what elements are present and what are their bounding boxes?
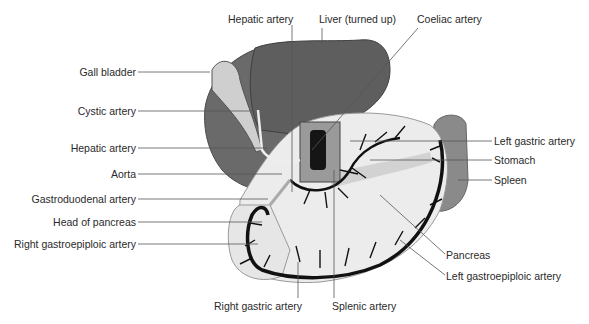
label-gall-bladder: Gall bladder (79, 66, 136, 78)
label-cystic-artery: Cystic artery (78, 105, 136, 117)
label-gastroduodenal-artery: Gastroduodenal artery (32, 193, 136, 205)
label-hepatic-artery-left: Hepatic artery (71, 142, 136, 154)
label-pancreas: Pancreas (446, 249, 490, 261)
label-liver: Liver (turned up) (319, 13, 396, 25)
label-coeliac-artery: Coeliac artery (417, 13, 482, 25)
label-hepatic-artery-top: Hepatic artery (228, 13, 293, 25)
label-head-of-pancreas: Head of pancreas (53, 216, 136, 228)
label-left-gastroepiploic-artery: Left gastroepiploic artery (446, 270, 561, 282)
label-splenic-artery: Splenic artery (332, 300, 396, 312)
label-left-gastric-artery: Left gastric artery (494, 135, 575, 147)
label-aorta: Aorta (111, 168, 136, 180)
label-right-gastroepiploic-artery: Right gastroepiploic artery (14, 238, 136, 250)
label-stomach: Stomach (494, 154, 535, 166)
label-right-gastric-artery: Right gastric artery (214, 300, 302, 312)
label-spleen: Spleen (494, 174, 527, 186)
